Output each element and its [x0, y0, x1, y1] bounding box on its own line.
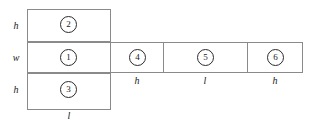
dimension-label-bottom-left-column: l: [62, 111, 76, 121]
face-number-6: 6: [267, 49, 284, 66]
face-number-6-text: 6: [273, 53, 278, 62]
dimension-label-left-top: h: [10, 21, 22, 31]
face-number-5-text: 5: [203, 53, 208, 62]
face-number-4-text: 4: [135, 53, 140, 62]
face-number-1: 1: [60, 49, 77, 66]
face-number-2: 2: [60, 16, 77, 33]
face-number-3: 3: [60, 81, 77, 98]
dimension-label-strip-second: l: [198, 76, 212, 86]
dimension-label-left-middle: w: [9, 53, 23, 63]
dimension-label-strip-third: h: [268, 76, 282, 86]
face-number-1-text: 1: [66, 53, 71, 62]
dimension-label-strip-first: h: [130, 76, 144, 86]
face-number-3-text: 3: [66, 85, 71, 94]
face-number-5: 5: [197, 49, 214, 66]
face-number-2-text: 2: [66, 20, 71, 29]
face-number-4: 4: [129, 49, 146, 66]
diagram-canvas: 2 1 3 4 5 6 h w h l h l h: [0, 0, 309, 124]
dimension-label-left-bottom: h: [10, 85, 22, 95]
